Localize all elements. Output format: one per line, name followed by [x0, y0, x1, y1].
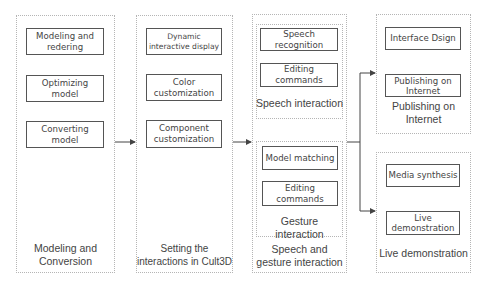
step-model-matching: Model matching: [262, 146, 338, 170]
step-text: Dynamic: [167, 32, 201, 41]
group-label-gesture: Gesture interaction: [256, 215, 343, 241]
step-live-demonstration: Livedemonstration: [386, 211, 460, 235]
step-text: recognition: [275, 40, 323, 50]
step-text: Interface Dsign: [390, 33, 456, 43]
label-line: Gesture interaction: [275, 215, 323, 240]
step-color-customization: Colorcustomization: [146, 74, 222, 101]
group-label-speech: Speech interaction: [256, 97, 343, 110]
step-text: Editing: [285, 183, 315, 193]
step-text: Editing: [284, 64, 314, 74]
step-editing-commands-speech: Editingcommands: [260, 63, 338, 87]
stage-label-publishing: Publishing onInternet: [376, 100, 471, 126]
step-text: Live: [414, 213, 432, 223]
step-publishing-internet: Publishing onInternet: [385, 74, 461, 97]
step-text: Speech: [283, 29, 315, 39]
step-text: Media synthesis: [389, 170, 458, 180]
step-text: customization: [154, 134, 214, 144]
step-text: Model matching: [265, 153, 334, 163]
step-text: model: [52, 135, 79, 145]
label-line: Publishing on: [392, 100, 455, 112]
step-text: Converting: [41, 124, 88, 134]
step-optimizing-model: Optimizingmodel: [26, 75, 104, 102]
step-text: Optimizing: [42, 78, 89, 88]
step-dynamic-display: Dynamicinteractive display: [146, 28, 222, 55]
step-text: Color: [173, 77, 195, 87]
step-text: commands: [275, 75, 322, 85]
stage-label-speech-gesture: Speech andgesture interaction: [252, 243, 347, 269]
label-line: Live demonstration: [379, 247, 468, 259]
label-line: Modeling and: [34, 242, 97, 254]
stage-label-live: Live demonstration: [376, 247, 471, 260]
step-modeling-rendering: Modeling andredering: [26, 28, 104, 55]
label-line: Internet: [406, 113, 442, 125]
label-line: gesture interaction: [256, 256, 342, 268]
label-line: Setting the: [161, 243, 209, 254]
step-editing-commands-gesture: Editingcommands: [262, 181, 338, 206]
step-converting-model: Convertingmodel: [26, 121, 104, 148]
step-text: Publishing on: [394, 76, 451, 86]
label-line: Speech and: [271, 243, 327, 255]
step-component-customization: Componentcustomization: [146, 120, 222, 148]
stage-label-interactions: Setting theinteractions in Cult3D: [134, 242, 235, 268]
step-text: interactive display: [149, 42, 219, 51]
step-text: model: [52, 89, 79, 99]
step-text: Internet: [406, 86, 440, 96]
step-media-synthesis: Media synthesis: [386, 164, 460, 187]
label-line: Speech interaction: [256, 97, 343, 109]
label-line: Conversion: [39, 255, 92, 267]
step-text: demonstration: [392, 223, 455, 233]
step-speech-recognition: Speechrecognition: [260, 28, 338, 51]
label-line: interactions in Cult3D: [137, 256, 232, 267]
step-text: redering: [47, 42, 83, 52]
step-text: customization: [154, 88, 214, 98]
step-text: Modeling and: [36, 31, 94, 41]
stage-label-modeling: Modeling andConversion: [16, 242, 115, 268]
step-text: commands: [276, 194, 323, 204]
step-text: Component: [159, 123, 209, 133]
step-interface-design: Interface Dsign: [385, 27, 461, 50]
